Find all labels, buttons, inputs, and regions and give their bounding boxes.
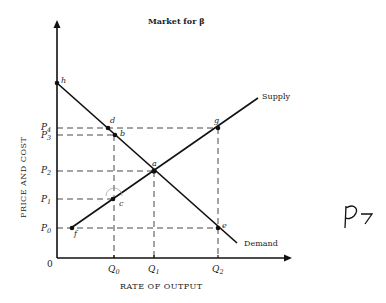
point-d (106, 126, 111, 131)
point-b (113, 133, 118, 138)
supply-label: Supply (262, 92, 290, 101)
reference-lines (57, 128, 218, 258)
svg-text:Q2: Q2 (212, 264, 224, 276)
svg-text:P1: P1 (40, 194, 51, 206)
point-a (151, 168, 156, 173)
supply-demand-diagram: Market for β h d b a (0, 0, 386, 303)
label-h: h (61, 76, 66, 85)
point-c (111, 197, 116, 202)
supply-curve (71, 98, 258, 228)
label-f: f (73, 229, 79, 238)
label-d: d (110, 116, 115, 125)
handwritten-p-glyph (345, 206, 356, 228)
x-axis-label: RATE OF OUTPUT (120, 282, 203, 291)
label-e: e (222, 221, 227, 230)
point-g (216, 126, 221, 131)
figure-title: Market for β (148, 16, 204, 26)
demand-label: Demand (244, 239, 278, 248)
handwritten-annotation (345, 206, 372, 228)
label-c: c (119, 199, 124, 208)
y-axis-arrow-icon (54, 20, 61, 28)
label-a: a (152, 159, 157, 168)
y-tick-labels: P4 P3 P2 P1 P0 (40, 122, 51, 235)
point-h (55, 81, 60, 86)
svg-text:Q0: Q0 (108, 264, 120, 276)
x-tick-labels: Q0 Q1 Q2 (108, 264, 224, 276)
point-e (216, 226, 221, 231)
svg-text:P0: P0 (40, 223, 51, 235)
y-axis-label: PRICE AND COST (19, 137, 28, 218)
svg-text:P2: P2 (40, 165, 51, 177)
svg-text:Q1: Q1 (148, 264, 160, 276)
x-axis-arrow-icon (284, 255, 292, 262)
handwritten-gt-glyph (361, 214, 372, 224)
label-g: g (214, 116, 219, 125)
origin-label: 0 (47, 259, 53, 269)
label-b: b (120, 129, 125, 138)
axes (57, 26, 286, 258)
